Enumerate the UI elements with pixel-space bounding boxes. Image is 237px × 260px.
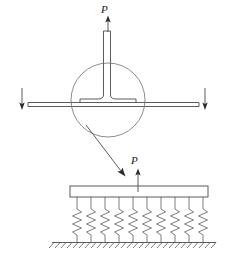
left-reaction-marker xyxy=(19,88,24,110)
engineering-diagram: P xyxy=(0,0,237,260)
web-fillet-right xyxy=(111,95,117,99)
spring xyxy=(157,197,166,242)
leader-arrowhead xyxy=(117,168,125,177)
leader-callout xyxy=(86,125,126,177)
spring xyxy=(171,197,180,242)
spring xyxy=(199,197,208,242)
i-beam-group xyxy=(28,31,199,107)
upper-load-label: P xyxy=(100,3,108,15)
lower-load-label: P xyxy=(130,154,138,166)
spring-foundation xyxy=(73,197,208,242)
spring xyxy=(73,197,82,242)
ground-support xyxy=(49,243,216,249)
diagram-canvas: P xyxy=(0,0,237,260)
leader-line xyxy=(86,125,121,171)
spring xyxy=(101,197,110,242)
upper-load-group: P xyxy=(100,3,111,32)
detail-circle xyxy=(71,63,145,137)
spring xyxy=(87,197,96,242)
rigid-plate xyxy=(70,186,208,197)
spring xyxy=(115,197,124,242)
spring xyxy=(143,197,152,242)
ground-hatching xyxy=(49,243,216,249)
right-reaction-marker xyxy=(202,88,207,110)
spring xyxy=(185,197,194,242)
spring xyxy=(129,197,138,242)
web-fillet-left xyxy=(98,95,104,99)
